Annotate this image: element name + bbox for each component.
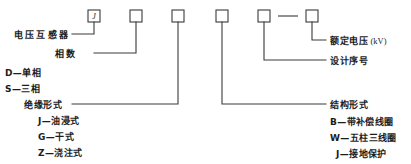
designation-box-4[interactable] bbox=[216, 10, 228, 22]
label-design-serial-text: 设计序号 bbox=[330, 56, 368, 66]
label-cast-type: Z—浇注式 bbox=[38, 149, 83, 158]
designation-box-3[interactable] bbox=[172, 10, 184, 22]
label-three-phase: S—三相 bbox=[5, 85, 40, 94]
label-structure-type: 结构形式 bbox=[330, 101, 368, 110]
leader-box5-to-design-serial bbox=[264, 22, 326, 60]
label-five-limb-coil-text: W—五柱三线圈 bbox=[330, 133, 397, 143]
designation-box-6[interactable] bbox=[306, 10, 318, 22]
leader-box1-to-voltage-transformer bbox=[72, 22, 94, 34]
label-structure-type-text: 结构形式 bbox=[330, 100, 368, 110]
label-design-serial: 设计序号 bbox=[330, 57, 368, 66]
leader-box4-to-structure-type bbox=[222, 22, 326, 104]
box-letter-1: J bbox=[88, 13, 100, 21]
designation-box-2[interactable] bbox=[130, 10, 142, 22]
model-designation-diagram: J 电压互感器相数D—单相S—三相绝缘形式J—油浸式G—干式Z—浇注式 额定电压… bbox=[0, 0, 411, 164]
label-five-limb-coil: W—五柱三线圈 bbox=[330, 134, 397, 143]
label-ground-protection-text: J—接地保护 bbox=[336, 149, 387, 159]
leader-box6-to-rated-voltage bbox=[312, 22, 326, 40]
label-compensating-coil-text: B—带补偿线圈 bbox=[330, 117, 394, 127]
label-compensating-coil: B—带补偿线圈 bbox=[330, 118, 394, 127]
label-rated-voltage-unit: (kV) bbox=[368, 36, 386, 46]
label-ground-protection: J—接地保护 bbox=[336, 150, 387, 159]
label-rated-voltage-text: 额定电压 bbox=[330, 36, 368, 46]
label-single-phase: D—单相 bbox=[5, 69, 41, 78]
leader-lines-group bbox=[72, 22, 326, 104]
label-dry-type: G—干式 bbox=[38, 133, 74, 142]
label-oil-immersed: J—油浸式 bbox=[38, 117, 79, 126]
label-insulation-type: 绝缘形式 bbox=[24, 101, 62, 110]
label-rated-voltage: 额定电压 (kV) bbox=[330, 37, 387, 46]
label-voltage-transformer: 电压互感器 bbox=[14, 31, 70, 40]
leader-box2-to-phase-count bbox=[94, 22, 136, 53]
designation-box-5[interactable] bbox=[258, 10, 270, 22]
label-phase-count: 相数 bbox=[55, 50, 77, 59]
